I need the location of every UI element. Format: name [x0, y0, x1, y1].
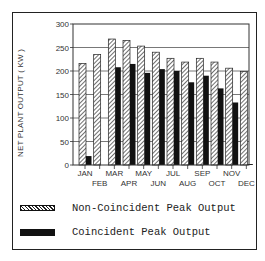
- bar-non-coincident: [240, 71, 247, 165]
- x-tick-label: MAR: [105, 169, 123, 178]
- bar-coincident: [159, 69, 165, 165]
- x-tick-label: OCT: [209, 179, 226, 188]
- x-tick-label: JUL: [166, 169, 181, 178]
- solid-swatch-icon: [20, 229, 55, 236]
- y-tick-label: 200: [56, 67, 70, 76]
- bar-non-coincident: [196, 58, 203, 165]
- bar-coincident: [233, 102, 239, 165]
- x-tick-label: APR: [121, 179, 138, 188]
- bar-non-coincident: [211, 62, 218, 165]
- bar-coincident: [130, 64, 136, 165]
- y-tick-label: 300: [56, 20, 70, 29]
- bar-non-coincident: [152, 52, 159, 165]
- bar-coincident: [218, 88, 224, 165]
- y-tick-label: 0: [65, 161, 70, 170]
- legend-label: Non-Coincident Peak Output: [72, 202, 236, 214]
- bar-coincident: [203, 76, 209, 165]
- bar-coincident: [86, 156, 92, 165]
- x-tick-label: NOV: [223, 169, 241, 178]
- legend-item-non-coincident: Non-Coincident Peak Output: [20, 203, 55, 213]
- bar-coincident: [174, 71, 180, 165]
- x-tick-label: JAN: [77, 169, 92, 178]
- y-tick-label: 100: [56, 114, 70, 123]
- y-axis-ticks: 050100150200250300: [56, 20, 73, 170]
- bar-non-coincident: [123, 40, 130, 165]
- bar-chart: 050100150200250300 JANFEBMARAPRMAYJUNJUL…: [0, 0, 265, 261]
- bar-non-coincident: [108, 39, 115, 165]
- x-tick-label: JUN: [151, 179, 167, 188]
- x-tick-label: SEP: [194, 169, 210, 178]
- legend-label: Coincident Peak Output: [72, 226, 211, 238]
- y-tick-label: 150: [56, 91, 70, 100]
- x-tick-label: AUG: [179, 179, 196, 188]
- x-axis-labels: JANFEBMARAPRMAYJUNJULAUGSEPOCTNOVDEC: [77, 165, 255, 188]
- x-tick-label: MAY: [135, 169, 152, 178]
- bar-non-coincident: [94, 55, 101, 165]
- y-tick-label: 50: [60, 138, 69, 147]
- legend-item-coincident: Coincident Peak Output: [20, 227, 55, 237]
- bar-coincident: [145, 73, 151, 165]
- hatched-swatch-icon: [20, 205, 55, 211]
- bar-coincident: [189, 82, 195, 165]
- bar-non-coincident: [226, 68, 233, 165]
- bar-non-coincident: [182, 62, 189, 165]
- x-tick-label: FEB: [92, 179, 108, 188]
- y-tick-label: 250: [56, 44, 70, 53]
- bar-non-coincident: [167, 58, 174, 165]
- bar-coincident: [115, 67, 121, 165]
- x-tick-label: DEC: [238, 179, 255, 188]
- bar-non-coincident: [79, 63, 86, 165]
- bars: [79, 39, 253, 165]
- bar-non-coincident: [138, 46, 145, 165]
